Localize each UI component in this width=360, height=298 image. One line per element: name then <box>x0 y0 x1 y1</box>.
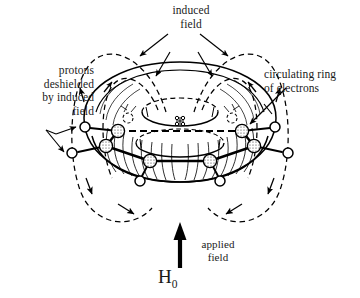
induced-field-label: induced field <box>136 4 246 31</box>
h0-subscript: 0 <box>172 278 178 290</box>
protons-deshielded-label: protons deshielded by induced field <box>2 64 94 118</box>
applied-field-arrow <box>174 222 187 268</box>
circulating-ring-label: circulating ring of electrons <box>264 68 360 95</box>
ring-current-diagram <box>0 0 360 298</box>
applied-field-label: applied field <box>186 238 250 264</box>
h0-label: H0 <box>158 266 218 291</box>
h0-symbol: H <box>158 266 172 287</box>
